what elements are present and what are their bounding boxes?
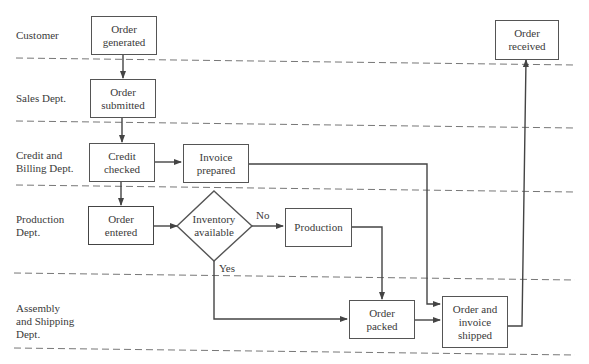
lane-label-assembly-shipping: Assembly and Shipping Dept. (16, 302, 74, 341)
lane-label-customer: Customer (16, 29, 59, 42)
lane-divider-2 (16, 121, 575, 128)
node-inventory-available: Inventory available (180, 213, 248, 239)
node-order-entered: Order entered (88, 206, 154, 245)
lane-divider-3 (16, 185, 575, 192)
lane-label-production: Production Dept. (16, 213, 64, 239)
lane-label-credit-billing: Credit and Billing Dept. (16, 149, 73, 175)
node-invoice-prepared: Invoice prepared (183, 144, 249, 183)
edge-shipped-received (507, 60, 526, 326)
node-order-submitted: Order submitted (90, 79, 156, 118)
edge-label-no: No (256, 209, 269, 221)
node-order-received: Order received (495, 20, 559, 60)
edge-production-packed (351, 227, 382, 299)
lane-divider-4 (14, 273, 575, 280)
lane-divider-1 (16, 58, 575, 65)
node-order-invoice-shipped: Order and invoice shipped (442, 296, 508, 348)
node-credit-checked: Credit checked (89, 143, 155, 182)
edge-label-yes: Yes (219, 262, 235, 274)
flowchart-canvas: Customer Sales Dept. Credit and Billing … (0, 0, 589, 364)
lane-label-sales: Sales Dept. (16, 92, 66, 105)
lane-divider-5 (14, 348, 575, 355)
node-order-generated: Order generated (91, 16, 157, 55)
node-order-packed: Order packed (349, 300, 415, 339)
node-production: Production (285, 208, 352, 247)
